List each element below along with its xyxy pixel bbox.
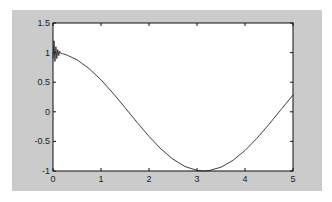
x-tick-label: 0 bbox=[50, 174, 55, 184]
x-tick-label: 1 bbox=[98, 174, 103, 184]
y-tick-label: -0.5 bbox=[34, 136, 50, 146]
line-chart: 012345-1-0.500.511.5 bbox=[0, 0, 332, 202]
x-tick-label: 2 bbox=[146, 174, 151, 184]
y-tick-label: 0.5 bbox=[37, 77, 50, 87]
y-tick-label: 1.5 bbox=[37, 18, 50, 28]
x-tick-label: 4 bbox=[242, 174, 247, 184]
y-tick-label: 0 bbox=[45, 107, 50, 117]
y-tick-label: -1 bbox=[42, 166, 50, 176]
x-tick-label: 5 bbox=[290, 174, 295, 184]
y-tick-label: 1 bbox=[45, 48, 50, 58]
x-tick-label: 3 bbox=[194, 174, 199, 184]
axes-background bbox=[53, 23, 293, 171]
